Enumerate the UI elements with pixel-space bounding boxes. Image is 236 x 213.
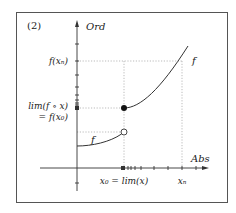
x-axis-label: Abs	[190, 153, 210, 164]
x-axis	[40, 166, 205, 170]
curve-label-upper: f	[191, 55, 198, 66]
x-axis-arrow-icon	[202, 166, 209, 170]
y-axis-label: Ord	[86, 21, 105, 32]
y-label-f-xn: f(xₙ)	[48, 56, 69, 66]
x-label-xn: xₙ	[178, 176, 187, 186]
curve-upper-branch	[124, 46, 188, 108]
curve-lower-branch	[77, 134, 122, 146]
y-label-lim-line1: lim(f ∘ x)	[28, 101, 68, 111]
x-label-x0: x₀ = lim(x)	[100, 176, 149, 186]
panel-label: (2)	[27, 20, 41, 31]
y-axis	[75, 25, 79, 191]
curve-label-lower: f	[90, 134, 97, 145]
filled-dot-point	[121, 105, 127, 111]
function-limit-diagram: (2) Ord	[0, 0, 236, 213]
y-label-lim-line2: = f(x₀)	[39, 112, 69, 122]
y-axis-arrow-icon	[75, 20, 79, 27]
open-circle-point	[121, 129, 127, 135]
